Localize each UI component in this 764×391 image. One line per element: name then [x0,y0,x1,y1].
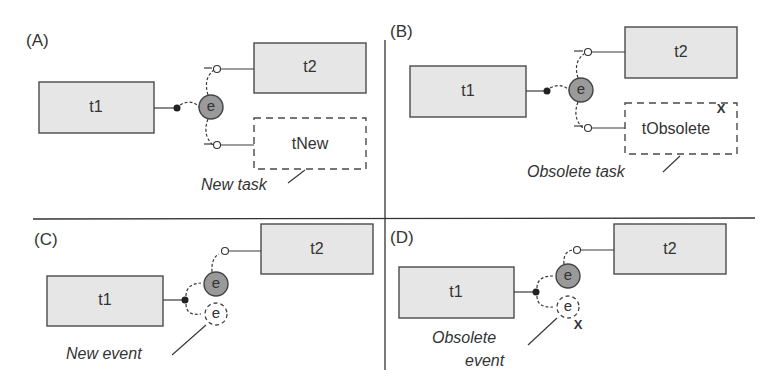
output-port-icon [544,88,551,95]
input-port-icon [214,66,221,73]
input-port-icon [214,142,221,149]
new-event-label: e [212,304,220,321]
task-t1-label: t1 [98,291,111,308]
annotation-new-task: New task [201,176,268,193]
task-t2-label: t2 [310,240,323,257]
horizontal-divider [33,218,755,219]
panel-c-label: (C) [34,230,58,249]
output-port-icon [182,297,189,304]
panel-b-label: (B) [390,22,413,41]
annotation-obsolete-event-line2: event [465,352,505,369]
obsolete-event-label: e [564,297,572,314]
diagram-canvas: (A) t1 t2 tNew e New task (B) t1 t2 [0,0,764,391]
input-port-icon [222,248,229,255]
event-e-label: e [212,274,220,291]
annotation-obsolete-task: Obsolete task [527,163,626,180]
panel-a-label: (A) [26,31,49,50]
task-t1-label: t1 [461,82,474,99]
annotation-obsolete-event-line1: Obsolete [432,329,496,346]
panel-d: (D) t1 t2 e e X Obsolete event [390,224,726,369]
obsolete-mark-icon: X [574,317,583,332]
annotation-new-event: New event [66,345,142,362]
panel-b: (B) t1 t2 tObsolete X e Obsolete task [390,22,737,180]
task-t2-label: t2 [303,58,316,75]
event-e-label: e [577,80,585,97]
task-new-label: tNew [292,135,329,152]
task-t2-label: t2 [663,240,676,257]
panel-a: (A) t1 t2 tNew e New task [26,31,366,193]
task-t1-label: t1 [89,98,102,115]
input-port-icon [585,49,592,56]
task-t1-label: t1 [449,283,462,300]
panel-d-label: (D) [390,228,414,247]
event-e-label: e [207,97,215,114]
input-port-icon [585,125,592,132]
panel-c: (C) t1 t2 e e New event [34,224,373,362]
input-port-icon [574,247,581,254]
output-port-icon [533,289,540,296]
task-obsolete-label: tObsolete [642,120,711,137]
task-t2-label: t2 [674,43,687,60]
obsolete-mark-icon: X [717,101,726,116]
event-e-label: e [564,266,572,283]
output-port-icon [174,105,181,112]
